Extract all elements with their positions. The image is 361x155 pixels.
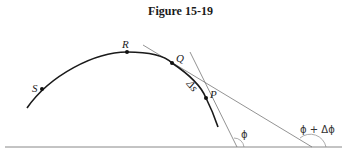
point-r-marker — [125, 50, 129, 54]
point-p-marker — [204, 96, 208, 100]
arc-length-label: Δs — [184, 77, 201, 94]
angle-phi-plus-delta-label: ϕ + Δϕ — [300, 124, 335, 135]
point-r-label: R — [121, 38, 129, 50]
diagram-canvas: S R Q P Δs ϕ ϕ + Δϕ — [0, 0, 361, 155]
angle-phi-label: ϕ — [241, 129, 248, 140]
point-q-label: Q — [176, 52, 184, 64]
angle-arc-phi-plus-delta — [300, 134, 326, 147]
point-s-marker — [40, 87, 44, 91]
point-s-label: S — [32, 82, 38, 94]
point-p-label: P — [209, 88, 217, 100]
point-q-marker — [170, 61, 174, 65]
